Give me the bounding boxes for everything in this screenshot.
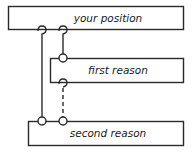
- label-second-reason: second reason: [70, 127, 147, 139]
- label-first-reason: first reason: [88, 64, 148, 76]
- connector-position-to-first: [59, 26, 67, 62]
- circle-joint-icon: [59, 117, 67, 125]
- circle-joint-icon: [38, 117, 46, 125]
- connector-position-to-second: [38, 26, 46, 125]
- hook-icon: [59, 26, 67, 54]
- hook-icon: [38, 26, 46, 117]
- argument-diagram: your position first reason second reason: [0, 0, 195, 152]
- connector-first-to-second: [59, 79, 67, 125]
- label-your-position: your position: [73, 12, 143, 24]
- circle-joint-icon: [59, 54, 67, 62]
